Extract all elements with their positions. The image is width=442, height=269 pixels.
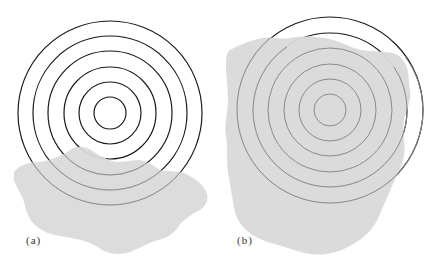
blob-a — [14, 147, 207, 254]
blob-b — [225, 37, 410, 255]
panel-b-label: (b) — [237, 234, 253, 246]
figure — [0, 0, 442, 269]
panel-a-label: (a) — [26, 234, 41, 246]
panel-a — [14, 21, 207, 254]
panel-b — [225, 17, 423, 255]
